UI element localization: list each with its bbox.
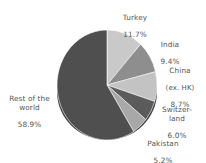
slice-label-china-name: China [156,67,204,75]
slice-label-pakistan-name: Pakistan [136,140,190,148]
slice-label-pakistan-value: 5.2% [136,157,190,163]
slice-label-pakistan: Pakistan 5.2% [136,132,190,163]
slice-label-switzerland-name: Switzer- land [152,106,202,123]
slice-label-turkey-name: Turkey [108,14,162,22]
slice-label-rest-of-world: Rest of the world 58.9% [2,87,57,137]
slice-label-china-note: (ex. HK) [156,84,204,92]
pie-chart: Turkey 11.7% India 9.4% China (ex. HK) 8… [0,0,206,163]
slice-label-rest-of-world-value: 58.9% [2,121,57,129]
slice-label-india-name: India [148,41,192,49]
slice-label-rest-of-world-name: Rest of the world [2,95,57,112]
